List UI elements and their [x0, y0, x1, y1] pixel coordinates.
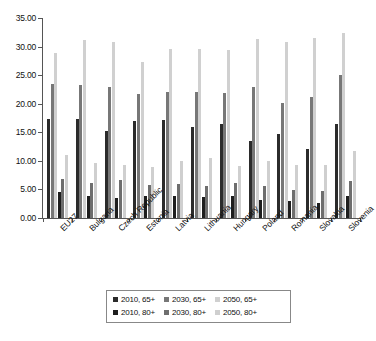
legend-swatch-icon [164, 310, 169, 315]
y-tick-label: 35.00 [16, 13, 36, 23]
bar-group [245, 18, 274, 218]
bar [342, 33, 345, 218]
bar-group [187, 18, 216, 218]
legend-label: 2010, 80+ [121, 308, 155, 317]
bar [209, 158, 212, 218]
bar [252, 87, 255, 218]
legend-label: 2050, 80+ [223, 308, 257, 317]
bar [227, 50, 230, 218]
bar [346, 196, 349, 218]
bar [205, 186, 208, 218]
y-tick-label: 10.00 [16, 156, 36, 166]
legend-item: 2030, 80+ [164, 308, 206, 317]
bar-group [101, 18, 130, 218]
bar [123, 165, 126, 218]
y-tick-label: 5.00 [20, 184, 36, 194]
bar-group [302, 18, 331, 218]
legend-swatch-icon [215, 310, 220, 315]
legend-label: 2010, 65+ [121, 295, 155, 304]
bar [54, 53, 57, 218]
y-tick-label: 15.00 [16, 127, 36, 137]
y-tick-label: 30.00 [16, 42, 36, 52]
bar [83, 40, 86, 218]
bar [324, 165, 327, 218]
bar [133, 121, 136, 218]
bar [76, 119, 79, 218]
bar-group [158, 18, 187, 218]
bar [234, 183, 237, 218]
bar [173, 196, 176, 218]
legend-item: 2010, 65+ [113, 295, 155, 304]
bar [195, 92, 198, 218]
legend-row: 2010, 80+2030, 80+2050, 80+ [113, 308, 285, 317]
bar [87, 196, 90, 218]
bar [281, 103, 284, 218]
bar [238, 166, 241, 218]
bar [310, 97, 313, 218]
legend-label: 2050, 65+ [223, 295, 257, 304]
legend-swatch-icon [113, 310, 118, 315]
bar [263, 186, 266, 218]
bar [90, 183, 93, 218]
y-tick-label: 20.00 [16, 99, 36, 109]
bar-group [331, 18, 360, 218]
bar [51, 84, 54, 218]
bar [198, 49, 201, 218]
bar [292, 190, 295, 218]
bar [353, 151, 356, 218]
bar [137, 94, 140, 218]
bar [339, 75, 342, 218]
bar [169, 49, 172, 218]
bar [285, 42, 288, 218]
bar [256, 39, 259, 218]
bar [141, 62, 144, 218]
bar [349, 181, 352, 218]
bar [295, 165, 298, 218]
bar [177, 184, 180, 218]
bar-group [72, 18, 101, 218]
bar [115, 198, 118, 218]
legend-row: 2010, 65+2030, 65+2050, 65+ [113, 295, 285, 304]
bar-group [43, 18, 72, 218]
bar [94, 163, 97, 218]
legend-item: 2010, 80+ [113, 308, 155, 317]
y-tick-label: 25.00 [16, 70, 36, 80]
bar [112, 42, 115, 218]
bar-group [216, 18, 245, 218]
x-axis-category-labels: EU27BulgariaCzech RepublicEstoniaLatviaL… [0, 222, 370, 282]
bar [321, 191, 324, 218]
bar [47, 119, 50, 218]
bar [277, 134, 280, 218]
bar [108, 87, 111, 218]
bar [162, 120, 165, 218]
bar [259, 200, 262, 218]
x-axis-line [42, 218, 360, 219]
bar [79, 85, 82, 218]
legend-item: 2030, 65+ [164, 295, 206, 304]
bar [61, 179, 64, 218]
y-axis: 0.005.0010.0015.0020.0025.0030.0035.00 [0, 0, 42, 240]
bar [180, 161, 183, 218]
legend-swatch-icon [215, 297, 220, 302]
bar [58, 192, 61, 218]
bar-group [274, 18, 303, 218]
bar [313, 38, 316, 218]
legend-label: 2030, 80+ [172, 308, 206, 317]
legend-item: 2050, 65+ [215, 295, 257, 304]
legend-item: 2050, 80+ [215, 308, 257, 317]
bar [202, 197, 205, 218]
bar [267, 161, 270, 218]
bar [166, 92, 169, 218]
bars-container [43, 18, 360, 218]
bar [223, 93, 226, 218]
bar [288, 201, 291, 218]
legend: 2010, 65+2030, 65+2050, 65+2010, 80+2030… [106, 290, 291, 323]
bar [65, 155, 68, 218]
legend-label: 2030, 65+ [172, 295, 206, 304]
bar [119, 180, 122, 218]
legend-swatch-icon [113, 297, 118, 302]
legend-swatch-icon [164, 297, 169, 302]
bar [191, 127, 194, 218]
